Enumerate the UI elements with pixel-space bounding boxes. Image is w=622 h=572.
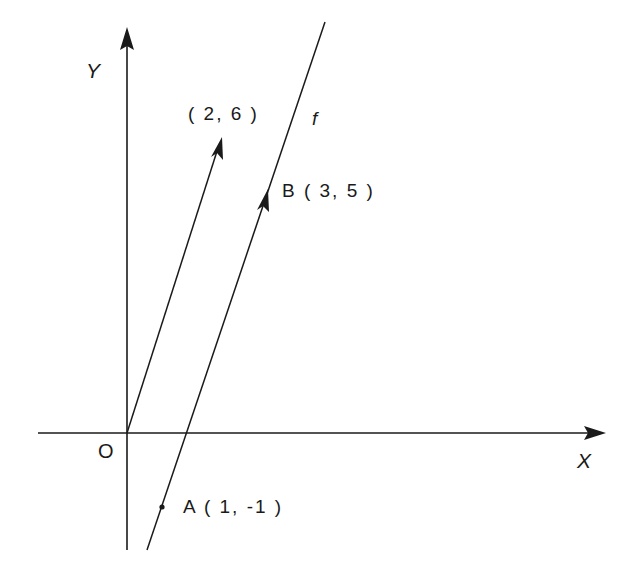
vector-ab-arrow-icon <box>257 189 269 212</box>
vector-endpoint-label: ( 2, 6 ) <box>188 104 259 123</box>
y-axis <box>120 27 134 550</box>
origin-label: O <box>98 441 114 461</box>
diagram-canvas <box>0 0 622 572</box>
y-axis-label: Y <box>86 60 100 81</box>
vector-line-diagram: Y X O ( 2, 6 ) f B ( 3, 5 ) A ( 1, -1 ) <box>0 0 622 572</box>
point-b-label: B ( 3, 5 ) <box>282 181 375 200</box>
x-axis-label: X <box>577 450 591 471</box>
line-f-label: f <box>312 109 317 128</box>
vector-origin-to-2-6 <box>127 137 223 433</box>
point-a-label: A ( 1, -1 ) <box>183 497 283 516</box>
x-axis <box>38 426 606 440</box>
vector-arrow-icon <box>211 137 223 160</box>
point-a-dot <box>159 504 164 509</box>
